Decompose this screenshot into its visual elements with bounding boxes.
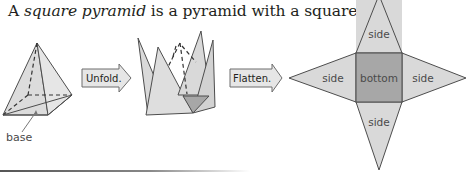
divider-rule	[0, 170, 250, 172]
base-label: base	[6, 131, 32, 144]
unfolding-pyramid-figure	[138, 31, 215, 115]
flatten-arrow: Flatten.	[230, 64, 282, 92]
net-right-side-label: side	[412, 72, 434, 84]
pyramid-net-figure: side side bottom side side	[289, 0, 466, 170]
unfold-arrow: Unfold.	[82, 64, 131, 92]
flatten-label: Flatten.	[233, 73, 271, 84]
square-pyramid-figure: base	[3, 43, 72, 144]
net-bottom-side-label: side	[368, 116, 390, 128]
net-top-side-label: side	[368, 28, 390, 40]
net-bottom-face-label: bottom	[360, 72, 398, 84]
net-left-side-label: side	[322, 72, 344, 84]
unfold-label: Unfold.	[86, 73, 122, 84]
diagram: base Unfold. Flatten. side side bottom s…	[0, 0, 470, 173]
